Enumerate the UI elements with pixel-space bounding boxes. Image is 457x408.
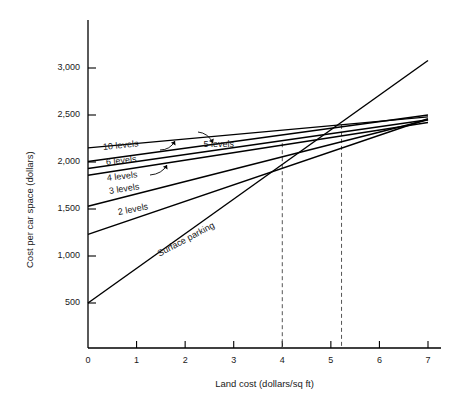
y-tick-label-0: 500 <box>34 297 80 307</box>
series-line-2-levels <box>88 119 428 235</box>
y-tick-label-3: 2,000 <box>34 156 80 166</box>
x-tick-label-6: 6 <box>365 355 393 365</box>
leader-4-levels-head <box>163 165 168 169</box>
x-tick-label-7: 7 <box>414 355 442 365</box>
y-tick-label-2: 1,500 <box>34 203 80 213</box>
x-tick-label-0: 0 <box>74 355 102 365</box>
chart-figure: 5001,0001,5002,0002,5003,00001234567Surf… <box>0 0 457 408</box>
series-line-4-levels <box>88 123 428 176</box>
y-tick-label-5: 3,000 <box>34 62 80 72</box>
y-axis-title: Cost per car space (dollars) <box>24 151 35 268</box>
x-tick-label-4: 4 <box>268 355 296 365</box>
x-tick-label-3: 3 <box>220 355 248 365</box>
axes <box>88 20 441 348</box>
x-axis-title: Land cost (dollars/sq ft) <box>88 378 441 389</box>
y-tick-label-4: 2,500 <box>34 109 80 119</box>
y-axis-ticks <box>88 68 96 303</box>
series-label-5-levels: 5 levels <box>204 139 235 149</box>
x-tick-label-2: 2 <box>171 355 199 365</box>
leader-6-levels-head <box>171 141 176 145</box>
y-tick-label-1: 1,000 <box>34 250 80 260</box>
x-tick-label-1: 1 <box>123 355 151 365</box>
x-tick-label-5: 5 <box>317 355 345 365</box>
